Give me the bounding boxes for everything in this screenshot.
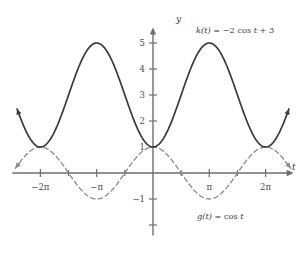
y-tick-label-0: 5: [140, 38, 145, 48]
x-tick-label-2: π: [207, 182, 213, 192]
x-tick-label-0: −2π: [31, 182, 50, 192]
y-axis-arrowhead: [150, 27, 156, 34]
function-label-k: k(t) = −2 cos t + 3: [196, 25, 274, 35]
y-tick-label-3: 2: [140, 116, 145, 126]
plot-svg: −2π−ππ2π 54321−1 y t k(t) = −2 cos t + 3…: [0, 0, 306, 261]
function-graph-figure: −2π−ππ2π 54321−1 y t k(t) = −2 cos t + 3…: [0, 0, 306, 261]
function-label-g: g(t) = cos t: [197, 211, 244, 221]
y-axis-label: y: [175, 14, 182, 24]
x-tick-label-1: −π: [90, 182, 103, 192]
curve-k-right-arrow: [285, 109, 290, 116]
y-tick-label-4: 1: [140, 142, 145, 152]
y-tick-label-2: 3: [140, 90, 145, 100]
curve-g-right-arrow: [285, 162, 291, 168]
x-tick-label-3: 2π: [260, 182, 271, 192]
x-tick-labels-group: −2π−ππ2π: [31, 182, 271, 192]
x-axis-label: t: [292, 162, 296, 172]
y-tick-label-1: 4: [140, 64, 145, 74]
curve-k-left-arrow: [17, 109, 22, 116]
curve-g-left-arrow: [15, 162, 21, 168]
y-tick-label-5: −1: [132, 194, 145, 204]
